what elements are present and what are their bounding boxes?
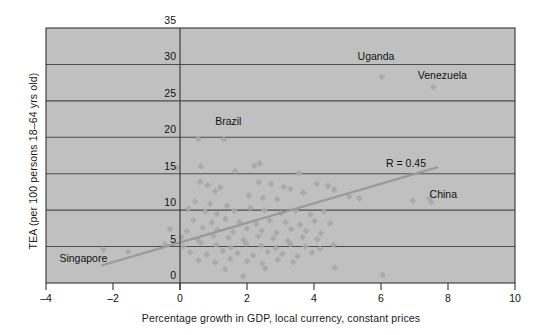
x-tick-label: 2	[244, 292, 250, 304]
plot-canvas: –4–20246810 05101520253035 UgandaVenezue…	[0, 0, 541, 335]
y-tick-label: 30	[164, 50, 176, 62]
annotation-label: China	[430, 188, 458, 200]
plot-background	[46, 28, 515, 283]
x-tick-label: –2	[107, 292, 119, 304]
x-tick-label: 4	[311, 292, 317, 304]
y-tick-label: 20	[164, 123, 176, 135]
x-tick-label: 10	[509, 292, 521, 304]
x-tick-label: 8	[445, 292, 451, 304]
x-tick-label: 6	[378, 292, 384, 304]
annotation-label: Singapore	[59, 252, 107, 264]
annotation-label: Brazil	[215, 115, 241, 127]
scatter-plot-figure: TEA (per 100 persons 18–64 yrs old) Perc…	[0, 0, 541, 335]
y-tick-label: 0	[170, 269, 176, 281]
annotation-label: R = 0.45	[386, 157, 426, 169]
y-tick-label: 5	[170, 233, 176, 245]
x-tick-label: –4	[40, 292, 52, 304]
y-tick-label: 35	[164, 14, 176, 26]
annotation-label: Venezuela	[418, 69, 467, 81]
y-tick-label: 10	[164, 196, 176, 208]
y-tick-label: 25	[164, 87, 176, 99]
y-tick-label: 15	[164, 160, 176, 172]
x-tick-label: 0	[177, 292, 183, 304]
annotation-label: Uganda	[358, 50, 395, 62]
x-axis-ticks: –4–20246810	[40, 283, 521, 304]
